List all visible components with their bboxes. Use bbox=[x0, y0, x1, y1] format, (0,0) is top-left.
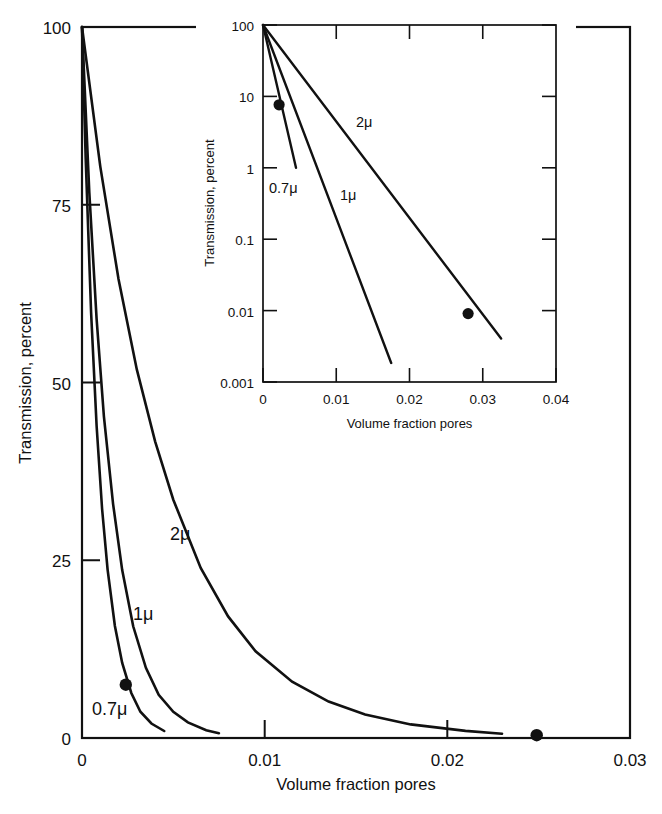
inset-ytick-label-0p001: 0.001 bbox=[220, 376, 254, 391]
inset-y-axis-title: Transmission, percent bbox=[202, 139, 217, 267]
inset-ytick-label-0p01: 0.01 bbox=[228, 305, 254, 320]
main-curve-label-2u: 2μ bbox=[170, 524, 190, 544]
inset-data-point-2 bbox=[463, 308, 474, 319]
main-ytick-label-50: 50 bbox=[52, 375, 71, 394]
inset-xtick-label-003: 0.03 bbox=[470, 392, 496, 407]
main-xtick-label-003: 0.03 bbox=[613, 751, 646, 770]
inset-xtick-label-002: 0.02 bbox=[396, 392, 422, 407]
inset-ytick-label-1: 1 bbox=[246, 162, 254, 177]
main-curve-label-0p7u: 0.7μ bbox=[92, 699, 127, 719]
main-data-point-2 bbox=[531, 729, 543, 741]
main-data-point-1 bbox=[120, 679, 132, 691]
main-ytick-label-25: 25 bbox=[52, 552, 71, 571]
main-ytick-label-0: 0 bbox=[62, 730, 71, 749]
figure-container: 100 75 50 25 0 0 0.01 0.02 0.03 Volume f… bbox=[0, 0, 662, 814]
inset-curve-label-1u: 1μ bbox=[340, 187, 356, 203]
inset-curve-label-2u: 2μ bbox=[356, 114, 372, 130]
main-xtick-label-001: 0.01 bbox=[248, 751, 281, 770]
inset-x-axis-title: Volume fraction pores bbox=[347, 416, 473, 431]
main-x-axis-title: Volume fraction pores bbox=[276, 775, 436, 793]
main-curve-0p7u bbox=[82, 27, 164, 731]
inset-plot: 100 10 1 0.1 0.01 0.001 0 0.01 0.02 0.03… bbox=[196, 19, 576, 440]
inset-data-point-1 bbox=[274, 99, 285, 110]
inset-xtick-label-0: 0 bbox=[259, 392, 267, 407]
transmission-vs-porosity-chart: 100 75 50 25 0 0 0.01 0.02 0.03 Volume f… bbox=[0, 0, 662, 814]
main-ytick-label-75: 75 bbox=[52, 197, 71, 216]
inset-ytick-label-100: 100 bbox=[231, 19, 254, 34]
inset-ytick-label-10: 10 bbox=[239, 90, 254, 105]
main-ytick-label-100: 100 bbox=[43, 19, 71, 38]
main-curve-label-1u: 1μ bbox=[133, 604, 153, 624]
main-x-ticks bbox=[82, 720, 630, 738]
main-y-axis-title: Transmission, percent bbox=[16, 302, 34, 464]
main-xtick-label-002: 0.02 bbox=[431, 751, 464, 770]
inset-ytick-label-0p1: 0.1 bbox=[235, 233, 254, 248]
inset-xtick-label-004: 0.04 bbox=[543, 392, 570, 407]
main-xtick-label-0: 0 bbox=[77, 751, 86, 770]
inset-xtick-label-001: 0.01 bbox=[323, 392, 349, 407]
inset-curve-label-0p7u: 0.7μ bbox=[269, 180, 298, 196]
